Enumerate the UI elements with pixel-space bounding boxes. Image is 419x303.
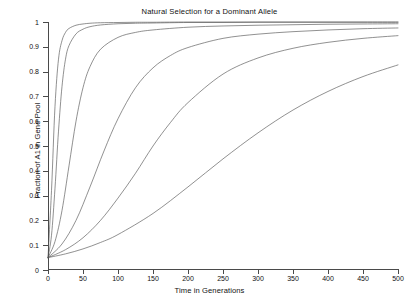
- series-line: [48, 22, 398, 257]
- x-tick-label: 400: [308, 275, 348, 282]
- x-tick-label: 300: [238, 275, 278, 282]
- y-tick-label: 0: [0, 267, 39, 274]
- series-line: [48, 28, 398, 258]
- x-tick-label: 250: [203, 275, 243, 282]
- x-tick-label: 350: [273, 275, 313, 282]
- chart-title: Natural Selection for a Dominant Allele: [0, 7, 419, 16]
- x-tick-label: 450: [343, 275, 383, 282]
- series-line: [48, 36, 398, 258]
- series-line: [48, 22, 398, 258]
- chart-curves: [48, 22, 398, 270]
- x-axis-label: Time in Generations: [0, 286, 419, 295]
- chart-figure: Natural Selection for a Dominant Allele …: [0, 0, 419, 303]
- y-tick-label: 1: [0, 19, 39, 26]
- x-tick-label: 200: [168, 275, 208, 282]
- series-line: [48, 24, 398, 258]
- x-tick-label: 0: [28, 275, 68, 282]
- x-tick-label: 100: [98, 275, 138, 282]
- x-tick-label: 150: [133, 275, 173, 282]
- x-tick-label: 500: [378, 275, 418, 282]
- series-line: [48, 65, 398, 258]
- x-tick-label: 50: [63, 275, 103, 282]
- x-tick: [398, 269, 399, 274]
- y-tick-label: 0.9: [0, 43, 39, 50]
- y-axis-label: Fraction of A1 in Gene Pool: [33, 51, 42, 251]
